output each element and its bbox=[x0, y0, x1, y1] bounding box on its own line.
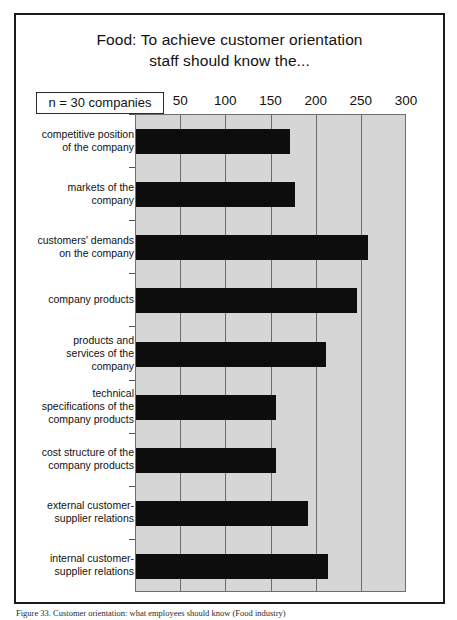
category-label-line: company bbox=[26, 360, 134, 373]
x-tick-label-300: 300 bbox=[386, 93, 426, 108]
category-label-line: company bbox=[26, 194, 134, 207]
category-label: company products bbox=[26, 293, 134, 306]
x-tick-label-150: 150 bbox=[251, 93, 291, 108]
category-label-line: of the company bbox=[26, 141, 134, 154]
bar bbox=[136, 395, 276, 420]
category-label-line: supplier relations bbox=[26, 512, 134, 525]
category-label-line: external customer- bbox=[26, 499, 134, 512]
category-label: external customer-supplier relations bbox=[26, 499, 134, 525]
bar bbox=[136, 288, 357, 313]
category-label-line: technical bbox=[26, 387, 134, 400]
bar bbox=[136, 129, 290, 154]
sample-size-badge: n = 30 companies bbox=[36, 92, 164, 114]
x-tick-label-250: 250 bbox=[341, 93, 381, 108]
category-label-line: competitive position bbox=[26, 128, 134, 141]
plot-area bbox=[135, 114, 406, 592]
x-axis-label-strip: n = 30 companies 50100150200250300 bbox=[16, 92, 443, 116]
category-label-line: company products bbox=[26, 413, 134, 426]
category-label-line: specifications of the bbox=[26, 400, 134, 413]
category-label-line: supplier relations bbox=[26, 565, 134, 578]
category-label: products andservices of thecompany bbox=[26, 334, 134, 373]
category-label-line: cost structure of the bbox=[26, 446, 134, 459]
x-tick-label-100: 100 bbox=[205, 93, 245, 108]
category-label: cost structure of thecompany products bbox=[26, 446, 134, 472]
x-tick-label-50: 50 bbox=[160, 93, 200, 108]
category-label-line: products and bbox=[26, 334, 134, 347]
category-label-line: customers' demands bbox=[26, 234, 134, 247]
figure-frame: Food: To achieve customer orientation st… bbox=[14, 13, 445, 604]
figure-caption: Figure 33. Customer orientation: what em… bbox=[16, 608, 446, 619]
category-label: internal customer-supplier relations bbox=[26, 552, 134, 578]
bar bbox=[136, 342, 326, 367]
bar bbox=[136, 235, 368, 260]
category-label-line: markets of the bbox=[26, 181, 134, 194]
category-label: technicalspecifications of thecompany pr… bbox=[26, 387, 134, 426]
bar bbox=[136, 554, 328, 579]
y-axis-category-labels: competitive positionof the companymarket… bbox=[22, 114, 134, 592]
chart-title-line-2: staff should know the... bbox=[16, 50, 443, 71]
page-title: Food: To achieve customer orientation st… bbox=[16, 29, 443, 71]
bar bbox=[136, 448, 276, 473]
category-label: customers' demandson the company bbox=[26, 234, 134, 260]
category-label-line: on the company bbox=[26, 247, 134, 260]
category-label-line: services of the bbox=[26, 347, 134, 360]
chart-title-line-1: Food: To achieve customer orientation bbox=[16, 29, 443, 50]
category-label: markets of thecompany bbox=[26, 181, 134, 207]
category-label-line: company products bbox=[26, 293, 134, 306]
gridline-250 bbox=[361, 115, 362, 591]
category-label-line: internal customer- bbox=[26, 552, 134, 565]
category-label-line: company products bbox=[26, 459, 134, 472]
x-tick-label-200: 200 bbox=[296, 93, 336, 108]
bar bbox=[136, 182, 295, 207]
category-label: competitive positionof the company bbox=[26, 128, 134, 154]
bar bbox=[136, 501, 308, 526]
